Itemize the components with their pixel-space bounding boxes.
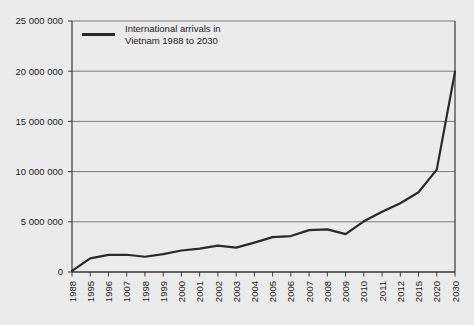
x-axis-tick-label: 2015 — [413, 281, 424, 302]
y-axis-tick-label: 5 000 000 — [21, 216, 63, 227]
x-axis-tick-label: 1998 — [140, 281, 151, 302]
x-axis-tick-label: 2002 — [213, 281, 224, 302]
y-axis-tick-label: 10 000 000 — [15, 166, 63, 177]
y-axis-tick-label: 20 000 000 — [15, 66, 63, 77]
legend-label-line2: Vietnam 1988 to 2030 — [125, 35, 218, 46]
x-axis-tick-label: 2008 — [322, 281, 333, 302]
x-axis-tick-label: 2004 — [249, 281, 260, 302]
gridlines — [72, 21, 455, 272]
x-axis-tick-label: 2005 — [267, 281, 278, 302]
x-axis-tick-label: 2011 — [377, 281, 388, 301]
line-chart: 05 000 00010 000 00015 000 00020 000 000… — [0, 0, 474, 325]
x-axis-tick-label: 1996 — [103, 281, 114, 302]
axis-lines — [72, 21, 455, 272]
x-axis-tick-label: 2012 — [395, 281, 406, 302]
y-axis-tick-label: 15 000 000 — [15, 116, 63, 127]
x-axis-labels: 1988199519961007199819992000200120022003… — [67, 281, 461, 302]
y-axis-labels: 05 000 00010 000 00015 000 00020 000 000… — [15, 15, 72, 277]
x-axis-tick-label: 2001 — [194, 281, 205, 302]
x-axis-ticks — [72, 272, 455, 277]
x-axis-tick-label: 2000 — [176, 281, 187, 302]
legend-label-line1: International arrivals in — [125, 23, 221, 34]
x-axis-tick-label: 2007 — [304, 281, 315, 302]
x-axis-tick-label: 2009 — [340, 281, 351, 302]
x-axis-tick-label: 1999 — [158, 281, 169, 302]
x-axis-tick-label: 2010 — [358, 281, 369, 302]
chart-container: 05 000 00010 000 00015 000 00020 000 000… — [0, 0, 474, 325]
x-axis-tick-label: 1988 — [67, 281, 78, 302]
y-axis-tick-label: 25 000 000 — [15, 15, 63, 26]
x-axis-tick-label: 1995 — [85, 281, 96, 302]
x-axis-tick-label: 2006 — [285, 281, 296, 302]
x-axis-tick-label: 1007 — [121, 281, 132, 302]
x-axis-tick-label: 2003 — [231, 281, 242, 302]
chart-legend: International arrivals inVietnam 1988 to… — [82, 23, 221, 47]
x-axis-tick-label: 2030 — [450, 281, 461, 302]
y-axis-tick-label: 0 — [58, 266, 63, 277]
x-axis-tick-label: 2020 — [431, 281, 442, 302]
